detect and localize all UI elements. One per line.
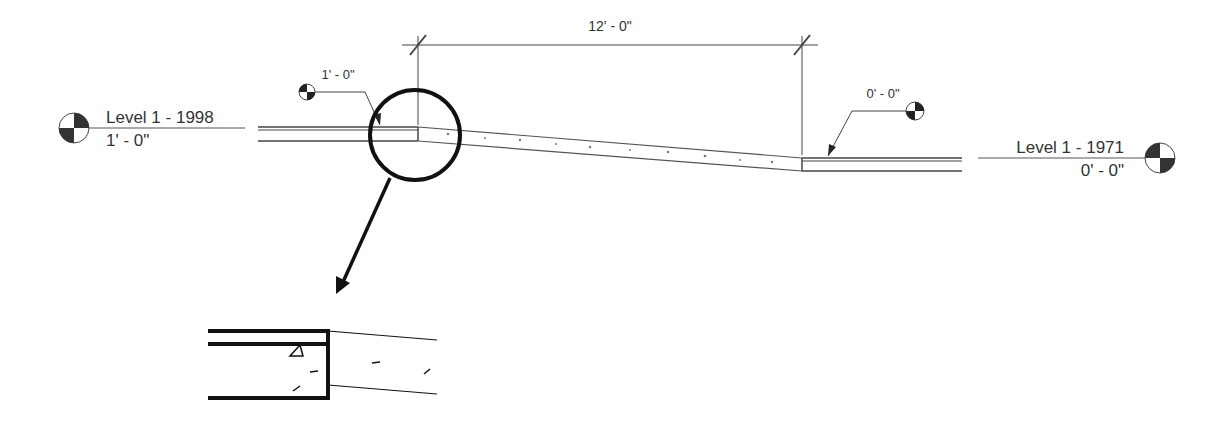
level-name-left: Level 1 - 1998 [106,108,214,127]
level-elevation-right: 0' - 0" [1081,161,1124,180]
left-slab [258,127,418,141]
aggregate-triangle-icon [290,345,303,356]
spot-elevation-left-value: 1' - 0" [321,67,354,82]
concrete-hatch [447,133,773,163]
leader-arrow-icon [828,144,836,156]
spot-elevation-right [828,102,924,156]
dimension-label: 12' - 0" [588,18,631,34]
detail-callout-circle [370,90,460,180]
ramp-slab [418,127,802,171]
spot-elevation-left [299,84,381,125]
right-slab [802,158,962,171]
enlarged-detail [208,329,437,400]
spot-elevation-right-value: 0' - 0" [866,86,899,101]
dimension-12ft [402,35,818,155]
ramp-section-drawing: 12' - 0" Level 1 - 1998 1' - 0" [0,0,1222,426]
level-name-right: Level 1 - 1971 [1016,138,1124,157]
level-elevation-left: 1' - 0" [106,131,149,150]
callout-arrow-line [343,178,390,282]
